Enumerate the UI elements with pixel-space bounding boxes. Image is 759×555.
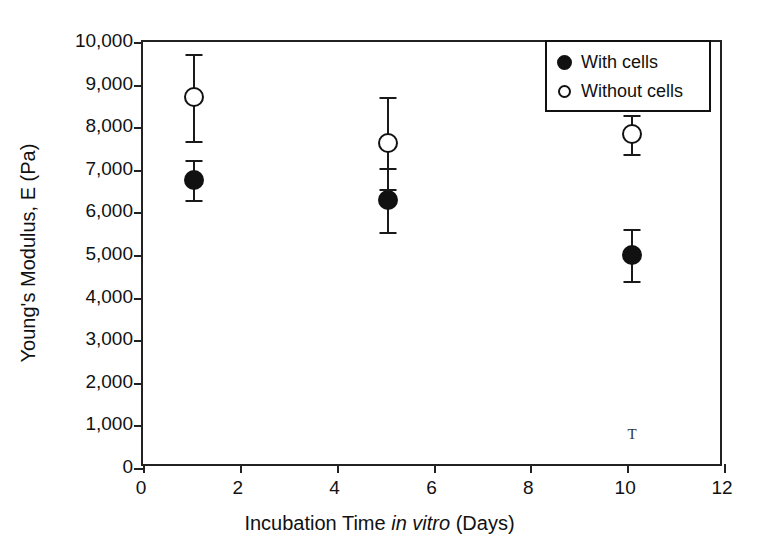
y-tick-2000 <box>134 383 143 385</box>
marker-filled-circle <box>378 190 398 210</box>
y-tick-8000 <box>134 127 143 129</box>
legend-marker-filled-circle-icon <box>557 55 572 70</box>
error-bar-cap-upper <box>624 115 641 117</box>
x-axis-title-italic: in vitro <box>391 512 450 534</box>
marker-open-circle <box>184 87 204 107</box>
marker-filled-circle <box>184 170 204 190</box>
x-tick-label-4: 4 <box>329 478 340 497</box>
error-bar-cap-lower <box>624 281 641 283</box>
y-tick-5000 <box>134 255 143 257</box>
y-tick-7000 <box>134 170 143 172</box>
x-tick-2 <box>240 464 242 473</box>
x-tick-label-6: 6 <box>426 478 437 497</box>
y-tick-label-9000: 9,000 <box>85 73 133 92</box>
legend-item-without-cells[interactable]: Without cells <box>557 77 709 106</box>
x-tick-0 <box>143 464 145 473</box>
stray-error-cap: T <box>627 425 636 442</box>
error-bar-cap-upper <box>379 97 396 99</box>
y-tick-0 <box>134 468 143 470</box>
x-tick-label-8: 8 <box>523 478 534 497</box>
x-axis-tick-labels: 024681012 <box>0 478 759 504</box>
x-tick-label-2: 2 <box>233 478 244 497</box>
error-bar-cap-lower <box>624 154 641 156</box>
y-tick-9000 <box>134 85 143 87</box>
y-tick-label-0: 0 <box>122 457 133 476</box>
y-tick-1000 <box>134 425 143 427</box>
x-tick-label-0: 0 <box>136 478 147 497</box>
x-axis-title: Incubation Time in vitro (Days) <box>0 512 759 535</box>
y-tick-label-1000: 1,000 <box>85 414 133 433</box>
x-tick-10 <box>627 464 629 473</box>
error-bar-cap-lower <box>379 232 396 234</box>
legend-item-label: With cells <box>581 52 658 73</box>
error-bar-cap-lower <box>185 141 202 143</box>
legend-item-label: Without cells <box>581 81 683 102</box>
y-tick-4000 <box>134 298 143 300</box>
x-tick-label-10: 10 <box>615 478 636 497</box>
legend-item-with-cells[interactable]: With cells <box>557 48 709 77</box>
error-bar-cap-upper <box>185 54 202 56</box>
error-bar-cap-upper <box>624 229 641 231</box>
y-tick-label-2000: 2,000 <box>85 371 133 390</box>
marker-open-circle <box>622 124 642 144</box>
y-tick-label-8000: 8,000 <box>85 116 133 135</box>
marker-open-circle <box>378 133 398 153</box>
x-tick-label-12: 12 <box>711 478 732 497</box>
y-tick-6000 <box>134 212 143 214</box>
y-tick-label-4000: 4,000 <box>85 286 133 305</box>
x-tick-6 <box>434 464 436 473</box>
legend-marker-open-circle-icon <box>558 85 571 98</box>
x-tick-8 <box>530 464 532 473</box>
figure-canvas: 01,0002,0003,0004,0005,0006,0007,0008,00… <box>0 0 759 555</box>
x-tick-4 <box>337 464 339 473</box>
y-tick-label-6000: 6,000 <box>85 201 133 220</box>
error-bar-cap-lower <box>185 200 202 202</box>
error-bar-cap-upper <box>185 160 202 162</box>
y-tick-label-3000: 3,000 <box>85 329 133 348</box>
chart-legend: With cellsWithout cells <box>545 40 711 112</box>
error-bar-cap-lower <box>379 189 396 191</box>
marker-filled-circle <box>622 245 642 265</box>
y-tick-label-10000: 10,000 <box>75 31 133 50</box>
y-tick-3000 <box>134 340 143 342</box>
x-tick-12 <box>724 464 726 473</box>
y-axis-title: Young's Modulus, E (Pa) <box>17 144 40 363</box>
y-tick-10000 <box>134 42 143 44</box>
y-tick-label-7000: 7,000 <box>85 158 133 177</box>
y-tick-label-5000: 5,000 <box>85 244 133 263</box>
